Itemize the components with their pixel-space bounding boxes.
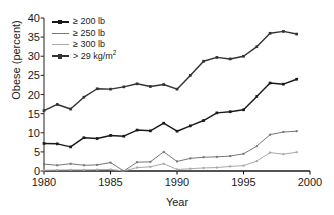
series--300-lb	[43, 151, 298, 172]
plot-area	[0, 0, 334, 215]
series--250-lb	[43, 130, 298, 172]
series--29-kg-m2	[43, 30, 298, 112]
obesity-trend-chart: Obese (percent) 0 5 10 15 20 25 30 35 40…	[0, 0, 334, 215]
axis-lines	[44, 18, 310, 171]
series--200-lb	[43, 78, 298, 148]
